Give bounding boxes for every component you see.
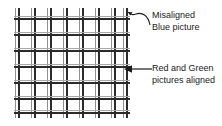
vertical-line-misaligned (79, 8, 80, 118)
left-arrow-icon (122, 62, 154, 76)
horizontal-line-misaligned (14, 80, 130, 81)
horizontal-line-misaligned (14, 96, 130, 97)
vertical-line-aligned (114, 8, 116, 118)
vertical-line-aligned (34, 8, 36, 118)
horizontal-line-aligned (14, 50, 130, 52)
curved-arrow-icon (124, 6, 154, 28)
horizontal-line-aligned (14, 66, 130, 68)
crosshatch-test-pattern (14, 8, 130, 118)
diagram-canvas: Misaligned Blue picture Red and Green pi… (0, 0, 222, 126)
vertical-line-misaligned (31, 8, 32, 118)
vertical-line-misaligned (47, 8, 48, 118)
horizontal-line-aligned (14, 34, 130, 36)
horizontal-line-misaligned (14, 48, 130, 49)
horizontal-line-aligned (14, 18, 130, 20)
callout-aligned-line2: pictures aligned (152, 74, 215, 86)
horizontal-line-misaligned (14, 64, 130, 65)
callout-aligned-line1: Red and Green (152, 62, 215, 74)
callout-misaligned-line1: Misaligned (152, 9, 200, 21)
vertical-line-misaligned (111, 8, 112, 118)
vertical-line-aligned (66, 8, 68, 118)
callout-aligned-red-green: Red and Green pictures aligned (152, 62, 215, 86)
vertical-line-misaligned (15, 8, 16, 118)
vertical-line-aligned (50, 8, 52, 118)
callout-misaligned-blue: Misaligned Blue picture (152, 9, 200, 33)
horizontal-line-aligned (14, 82, 130, 84)
horizontal-line-misaligned (14, 32, 130, 33)
vertical-line-aligned (98, 8, 100, 118)
vertical-line-aligned (18, 8, 20, 118)
horizontal-line-misaligned (14, 16, 130, 17)
horizontal-line-misaligned (14, 110, 130, 111)
vertical-line-misaligned (95, 8, 96, 118)
horizontal-line-aligned (14, 98, 130, 100)
vertical-line-aligned (82, 8, 84, 118)
vertical-line-misaligned (63, 8, 64, 118)
horizontal-line-aligned (14, 112, 130, 114)
callout-misaligned-line2: Blue picture (152, 21, 200, 33)
